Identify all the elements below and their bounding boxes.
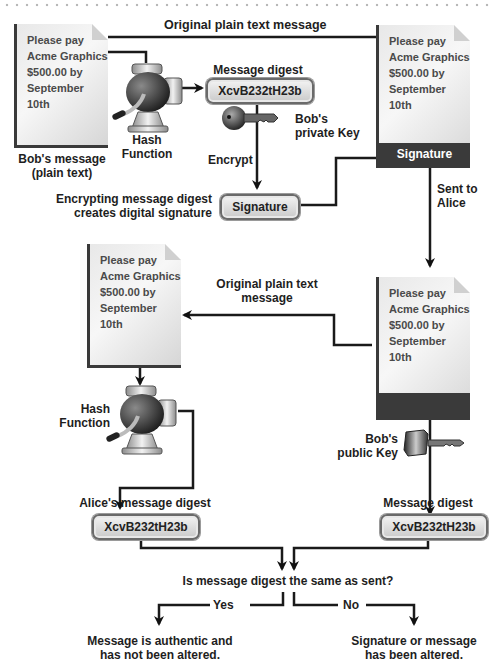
message-line: Acme Graphics: [27, 48, 108, 64]
yes-result: Message is authentic andhas not been alt…: [80, 634, 240, 662]
message-line: Acme Graphics: [100, 268, 181, 284]
sent-to-alice-label: Sent toAlice: [437, 182, 478, 210]
message-line: Acme Graphics: [389, 49, 470, 65]
message-line: $500.00 by: [27, 64, 108, 80]
private-key-label: Bob'sprivate Key: [295, 112, 360, 140]
signature-bar: [379, 393, 470, 417]
no-label: No: [343, 598, 359, 612]
signed-message-document: Please pay Acme Graphics $500.00 by Sept…: [376, 25, 470, 168]
hash-function-grinder-icon: [110, 62, 190, 134]
signature-bar: Signature: [379, 143, 470, 165]
original-plain-text-label: Original plain textmessage: [200, 277, 334, 305]
public-key-icon: [402, 428, 466, 458]
message-digest-value: XcvB232tH23b: [206, 78, 314, 104]
message-digest-title: Message digest: [200, 63, 316, 77]
message-line: $500.00 by: [389, 317, 470, 333]
no-result: Signature or messagehas been altered.: [344, 634, 484, 662]
alice-digest-title: Alice's message digest: [70, 496, 220, 510]
signature-caption: Encrypting message digestcreates digital…: [40, 192, 212, 220]
received-signed-document: Please pay Acme Graphics $500.00 by Sept…: [376, 277, 470, 420]
message-line: Please pay: [27, 32, 108, 48]
decrypted-digest-value: XcvB232tH23b: [380, 514, 488, 540]
message-line: September 10th: [389, 333, 470, 365]
message-line: $500.00 by: [100, 284, 181, 300]
received-plain-document: Please pay Acme Graphics $500.00 by Sept…: [87, 244, 181, 368]
decision-question: Is message digest the same as sent?: [150, 574, 426, 588]
message-line: $500.00 by: [389, 65, 470, 81]
message-line: September 10th: [100, 300, 181, 332]
bobs-message-caption: Bob's message(plain text): [10, 152, 114, 180]
alice-digest-value: XcvB232tH23b: [92, 514, 200, 540]
message-line: Please pay: [389, 33, 470, 49]
yes-label: Yes: [213, 598, 234, 612]
private-key-icon: [220, 104, 280, 134]
message-line: September 10th: [389, 81, 470, 113]
bobs-message-document: Please pay Acme Graphics $500.00 by Sept…: [14, 24, 108, 148]
hash-function-label: HashFunction: [112, 133, 182, 161]
message-line: Please pay: [100, 252, 181, 268]
message-line: September 10th: [27, 80, 108, 112]
message-line: Please pay: [389, 285, 470, 301]
decrypted-digest-title: Message digest: [370, 496, 486, 510]
signature-pill: Signature: [220, 194, 300, 220]
hash-function-grinder-icon: [104, 384, 184, 456]
message-line: Acme Graphics: [389, 301, 470, 317]
public-key-label: Bob'spublic Key: [320, 432, 398, 460]
original-message-arrow-label: Original plain text message: [164, 18, 327, 32]
hash-function-label: HashFunction: [40, 402, 110, 430]
encrypt-label: Encrypt: [208, 153, 253, 167]
